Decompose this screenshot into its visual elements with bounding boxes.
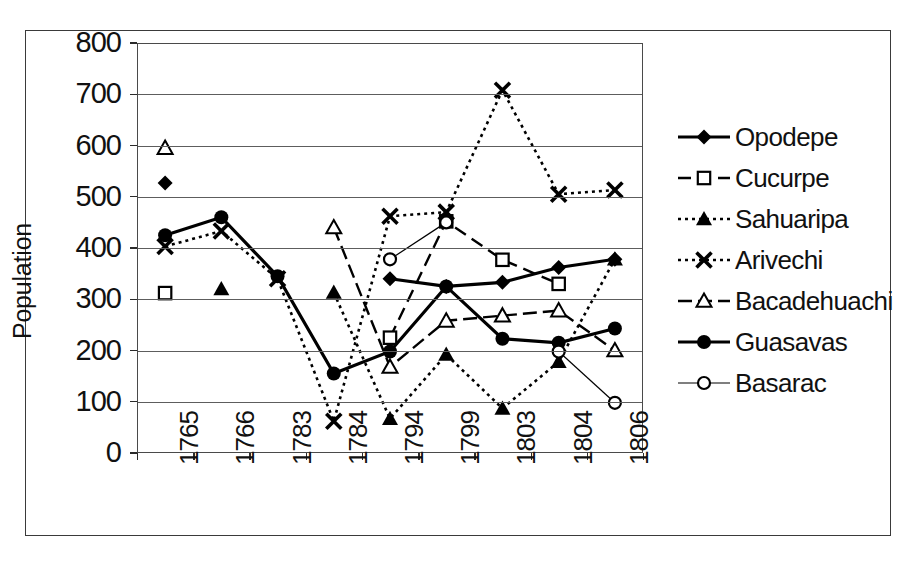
y-axis-tick-label: 300 [35,284,121,313]
legend-item-basarac[interactable]: Basarac [676,362,916,403]
gridline [137,248,643,249]
data-point-marker [551,260,566,275]
legend-label: Opodepe [735,124,838,150]
gridline [137,402,643,403]
legend-item-opodepe[interactable]: Opodepe [676,116,916,157]
y-axis-tick-mark [130,247,137,248]
x-axis-tick-label: 1794 [401,411,427,465]
data-point-marker [495,332,509,346]
data-point-marker [438,347,454,361]
legend-marker-icon [676,166,732,190]
y-axis-tick-label: 600 [35,131,121,160]
gridline [137,146,643,147]
data-point-marker [383,359,398,372]
y-axis-tick-label: 100 [35,387,121,416]
y-axis-title: Population [8,181,37,381]
x-axis-tick-mark [137,453,138,460]
data-point-marker [496,254,508,266]
data-point-marker [439,279,453,293]
data-point-marker [158,228,172,242]
x-axis-tick-label: 1799 [457,411,483,465]
x-axis-tick-label: 1803 [513,411,539,465]
data-point-marker [158,175,173,190]
legend-marker [698,171,710,183]
gridline [137,197,643,198]
data-point-marker [495,83,510,98]
data-point-marker [158,141,173,154]
data-point-marker [214,210,228,224]
legend-marker [698,377,710,389]
y-axis-tick-label: 400 [35,233,121,262]
y-axis-tick-label: 0 [35,438,121,467]
legend-marker-icon [676,330,732,354]
data-point-marker [553,346,565,358]
data-point-marker [326,414,341,429]
x-axis-tick-label: 1766 [232,411,258,465]
legend-marker [697,335,711,349]
data-point-marker [440,216,452,228]
y-axis-tick-label: 800 [35,28,121,57]
gridline [137,351,643,352]
chart-legend: OpodepeCucurpeSahuaripaArivechiBacadehua… [676,116,916,403]
data-point-marker [383,209,398,224]
data-point-marker [608,321,622,335]
y-axis-tick-mark [130,196,137,197]
legend-label: Basarac [735,370,826,396]
data-point-marker [384,331,396,343]
x-axis-tick-label: 1783 [289,411,315,465]
legend-marker-icon [676,371,732,395]
data-point-marker [495,275,510,290]
data-point-marker [159,287,171,299]
data-point-marker [609,397,621,409]
y-axis-tick-mark [130,42,137,43]
data-point-marker [551,303,566,316]
legend-label: Guasavas [735,329,847,355]
legend-marker-icon [676,248,732,272]
data-point-marker [552,278,564,290]
y-axis-tick-mark [130,401,137,402]
y-axis-tick-mark [130,94,137,95]
x-axis-tick-label: 1804 [570,411,596,465]
y-axis-tick-label: 200 [35,336,121,365]
legend-item-guasavas[interactable]: Guasavas [676,321,916,362]
data-point-marker [382,411,398,425]
legend-item-arivechi[interactable]: Arivechi [676,239,916,280]
data-point-marker [214,224,229,239]
data-point-marker [383,345,397,359]
y-axis-tick-mark [130,350,137,351]
gridline [137,94,643,95]
data-point-marker [213,281,229,295]
legend-label: Arivechi [735,247,823,273]
data-point-marker [551,187,566,202]
chart-figure: Population 0100200300400500600700800 176… [25,30,891,536]
legend-marker-icon [676,125,732,149]
data-point-marker [326,285,342,299]
legend-label: Cucurpe [735,165,829,191]
series-line [559,352,615,403]
legend-item-cucurpe[interactable]: Cucurpe [676,157,916,198]
data-point-marker [326,220,341,233]
x-axis-tick-label: 1765 [176,411,202,465]
data-point-marker [327,367,341,381]
legend-item-bacadehuachi[interactable]: Bacadehuachi [676,280,916,321]
gridline [137,299,643,300]
y-axis-tick-mark [130,452,137,453]
legend-label: Bacadehuachi [735,288,893,314]
legend-item-sahuaripa[interactable]: Sahuaripa [676,198,916,239]
y-axis-tick-label: 500 [35,182,121,211]
data-point-marker [271,269,285,283]
y-axis-tick-label: 700 [35,79,121,108]
legend-marker-icon [676,289,732,313]
legend-marker [696,211,712,225]
y-axis-tick-mark [130,299,137,300]
x-axis-tick-label: 1806 [626,411,652,465]
legend-marker-icon [676,207,732,231]
x-axis-tick-label: 1784 [345,411,371,465]
legend-marker [697,252,712,267]
plot-area [137,43,643,453]
data-point-marker [383,271,398,286]
legend-marker [697,129,712,144]
data-point-marker [384,253,396,265]
legend-label: Sahuaripa [735,206,848,232]
data-point-marker [607,183,622,198]
